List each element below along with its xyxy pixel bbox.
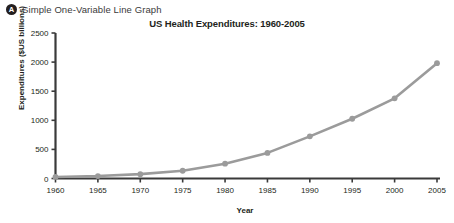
data-point-marker bbox=[95, 173, 101, 179]
y-tick-label: 1000 bbox=[31, 116, 49, 125]
x-axis-ticks: 1960196519701975198019851990199520002005 bbox=[47, 179, 447, 195]
data-point-marker bbox=[222, 161, 228, 167]
data-point-marker bbox=[265, 150, 271, 156]
data-point-marker bbox=[434, 60, 440, 66]
chart-plot-area: 05001000150020002500 1960196519701975198… bbox=[0, 16, 454, 223]
section-badge-icon: A bbox=[6, 4, 17, 15]
y-axis-group: 05001000150020002500 bbox=[31, 29, 56, 184]
x-tick-label: 1960 bbox=[47, 186, 65, 195]
line-chart: US Health Expenditures: 1960-2005 Expend… bbox=[0, 16, 454, 223]
x-tick-label: 1965 bbox=[89, 186, 107, 195]
x-tick-label: 1985 bbox=[259, 186, 277, 195]
data-point-marker bbox=[180, 168, 186, 174]
x-tick-label: 2000 bbox=[386, 186, 404, 195]
series-markers bbox=[53, 60, 440, 180]
y-tick-label: 0 bbox=[44, 175, 49, 184]
data-point-marker bbox=[349, 116, 355, 122]
x-axis-group: 1960196519701975198019851990199520002005 bbox=[47, 179, 447, 195]
figure-header: A Simple One-Variable Line Graph bbox=[6, 4, 162, 15]
data-point-marker bbox=[137, 171, 143, 177]
x-tick-label: 1975 bbox=[174, 186, 192, 195]
y-tick-label: 500 bbox=[35, 145, 49, 154]
y-tick-label: 1500 bbox=[31, 87, 49, 96]
y-tick-label: 2500 bbox=[31, 29, 49, 38]
y-axis-ticks: 05001000150020002500 bbox=[31, 29, 56, 184]
data-point-marker bbox=[53, 174, 59, 180]
data-point-marker bbox=[307, 133, 313, 139]
chart-page: A Simple One-Variable Line Graph US Heal… bbox=[0, 0, 454, 223]
x-tick-label: 1995 bbox=[343, 186, 361, 195]
data-point-marker bbox=[392, 95, 398, 101]
figure-header-title: Simple One-Variable Line Graph bbox=[22, 4, 162, 15]
x-tick-label: 1970 bbox=[131, 186, 149, 195]
x-tick-label: 1990 bbox=[301, 186, 319, 195]
series-line bbox=[56, 63, 438, 177]
x-tick-label: 2005 bbox=[428, 186, 446, 195]
y-tick-label: 2000 bbox=[31, 58, 49, 67]
x-tick-label: 1980 bbox=[216, 186, 234, 195]
